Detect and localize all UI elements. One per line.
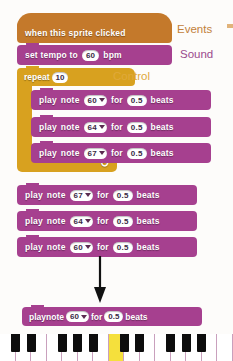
down-arrow-icon xyxy=(92,256,108,304)
block-when-this-sprite-clicked[interactable]: when this sprite clicked xyxy=(17,22,172,43)
for-label: for xyxy=(91,312,102,322)
block-notch xyxy=(26,183,39,187)
block-notch xyxy=(40,115,53,119)
block-notch xyxy=(26,209,39,213)
repeat-left-arm xyxy=(17,86,32,156)
piano-black-key[interactable] xyxy=(73,334,82,352)
note-label: note xyxy=(47,242,66,252)
note-label: note xyxy=(47,190,66,200)
piano-black-key[interactable] xyxy=(197,334,206,352)
for-label: for xyxy=(97,190,109,200)
chevron-down-icon xyxy=(99,151,105,155)
beats-input[interactable]: 0.5 xyxy=(113,190,133,201)
beats-label: beats xyxy=(151,122,174,132)
block-play-note-inner-2[interactable]: play note 64 for 0.5 beats xyxy=(31,117,211,137)
beats-input[interactable]: 0.5 xyxy=(127,95,147,106)
block-notch xyxy=(40,141,53,145)
block-play-note-callout[interactable]: play note 60 for 0.5 beats xyxy=(22,307,202,326)
play-label: play xyxy=(39,95,57,105)
beats-label: beats xyxy=(151,95,174,105)
for-label: for xyxy=(97,242,109,252)
note-dropdown[interactable]: 60 xyxy=(70,242,93,253)
note-value: 67 xyxy=(88,148,97,159)
hat-block-cap xyxy=(17,13,172,27)
tempo-value-input[interactable]: 60 xyxy=(82,50,99,61)
beats-label: beats xyxy=(137,216,160,226)
block-play-note-outer-3[interactable]: play note 60 for 0.5 beats xyxy=(17,237,197,257)
note-dropdown[interactable]: 67 xyxy=(70,190,93,201)
beats-input[interactable]: 0.5 xyxy=(127,122,147,133)
note-label: note xyxy=(61,95,80,105)
play-label: play xyxy=(29,312,46,322)
set-tempo-suffix-label: bpm xyxy=(103,50,122,60)
note-dropdown[interactable]: 60 xyxy=(66,311,89,322)
chevron-down-icon xyxy=(81,315,87,319)
for-label: for xyxy=(97,216,109,226)
note-value: 60 xyxy=(74,242,83,253)
for-label: for xyxy=(111,148,123,158)
beats-input[interactable]: 0.5 xyxy=(104,311,123,322)
block-play-note-inner-1[interactable]: play note 60 for 0.5 beats xyxy=(31,90,211,110)
piano-black-key[interactable] xyxy=(58,334,67,352)
chevron-down-icon xyxy=(85,219,91,223)
note-value: 67 xyxy=(74,190,83,201)
chevron-down-icon xyxy=(99,125,105,129)
chevron-down-icon xyxy=(85,193,91,197)
note-value: 60 xyxy=(88,95,97,106)
beats-label: beats xyxy=(125,312,147,322)
note-value: 64 xyxy=(88,122,97,133)
block-play-note-outer-2[interactable]: play note 64 for 0.5 beats xyxy=(17,211,197,231)
piano-black-key[interactable] xyxy=(11,334,20,352)
play-label: play xyxy=(25,216,43,226)
piano-white-key[interactable] xyxy=(217,334,233,361)
repeat-count-input[interactable]: 10 xyxy=(52,72,69,83)
piano-black-key[interactable] xyxy=(166,334,175,352)
piano-black-key[interactable] xyxy=(89,334,98,352)
palette-label-sound: Sound xyxy=(180,48,213,60)
piano-keyboard[interactable] xyxy=(0,334,233,361)
beats-input[interactable]: 0.5 xyxy=(127,148,147,159)
piano-black-key[interactable] xyxy=(135,334,144,352)
palette-label-events: Events xyxy=(177,23,212,35)
beats-input[interactable]: 0.5 xyxy=(113,216,133,227)
note-label: note xyxy=(61,122,80,132)
repeat-label: repeat xyxy=(24,72,50,82)
beats-input[interactable]: 0.5 xyxy=(113,242,133,253)
chevron-down-icon xyxy=(99,98,105,102)
play-label: play xyxy=(39,148,57,158)
block-notch xyxy=(26,43,39,47)
note-label: note xyxy=(46,312,64,322)
beats-label: beats xyxy=(137,242,160,252)
note-value: 64 xyxy=(74,216,83,227)
edge-cutoff-mark xyxy=(227,24,233,28)
block-notch xyxy=(26,66,39,70)
note-label: note xyxy=(61,148,80,158)
beats-label: beats xyxy=(151,148,174,158)
piano-black-key[interactable] xyxy=(27,334,36,352)
note-dropdown[interactable]: 64 xyxy=(84,122,107,133)
block-notch xyxy=(40,88,53,92)
note-dropdown[interactable]: 67 xyxy=(84,148,107,159)
chevron-down-icon xyxy=(85,245,91,249)
palette-label-control: Control xyxy=(113,70,150,82)
block-notch xyxy=(31,305,44,309)
note-value: 60 xyxy=(70,311,79,322)
block-set-tempo[interactable]: set tempo to 60 bpm xyxy=(17,45,172,65)
block-play-note-outer-1[interactable]: play note 67 for 0.5 beats xyxy=(17,185,197,205)
piano-black-key[interactable] xyxy=(182,334,191,352)
piano-black-key[interactable] xyxy=(120,334,129,352)
play-label: play xyxy=(25,242,43,252)
note-dropdown[interactable]: 64 xyxy=(70,216,93,227)
note-label: note xyxy=(47,216,66,226)
hat-block-label: when this sprite clicked xyxy=(25,28,126,38)
note-dropdown[interactable]: 60 xyxy=(84,95,107,106)
set-tempo-prefix-label: set tempo to xyxy=(25,50,78,60)
for-label: for xyxy=(111,122,123,132)
scratch-script-canvas: when this sprite clicked set tempo to 60… xyxy=(0,0,233,361)
block-play-note-inner-3[interactable]: play note 67 for 0.5 beats xyxy=(31,143,211,163)
beats-label: beats xyxy=(137,190,160,200)
block-notch xyxy=(26,235,39,239)
play-label: play xyxy=(39,122,57,132)
for-label: for xyxy=(111,95,123,105)
play-label: play xyxy=(25,190,43,200)
